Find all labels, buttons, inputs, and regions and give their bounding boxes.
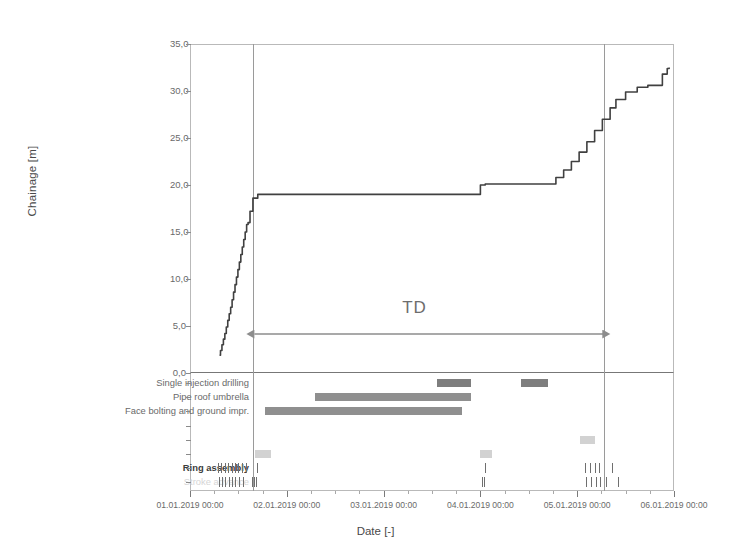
x-minor-tick-mark (335, 491, 336, 494)
gantt-bar (315, 393, 470, 401)
vertical-marker-2 (604, 44, 605, 491)
gantt-row-tick (186, 411, 191, 412)
gantt-event-tick (221, 463, 222, 473)
y-tick-label: 5,0 (170, 320, 186, 331)
x-minor-tick-mark (311, 491, 312, 494)
gantt-event-tick (618, 477, 619, 487)
y-tick-label: 10,0 (170, 273, 186, 284)
gantt-bar (437, 379, 470, 387)
gantt-row-label: Pipe roof umbrella (173, 391, 249, 402)
gantt-bar (521, 379, 548, 387)
gantt-event-tick (235, 463, 236, 473)
gantt-row-label: Single injection drilling (156, 377, 249, 388)
gantt-event-tick (225, 477, 226, 487)
gantt-event-tick (595, 463, 596, 473)
gantt-bar (265, 407, 462, 415)
gantt-event-tick (484, 477, 485, 487)
y-tick-mark (186, 279, 191, 280)
x-tick-mark (384, 491, 385, 497)
x-minor-tick-mark (238, 491, 239, 494)
gantt-event-tick (586, 477, 587, 487)
gantt-event-tick (229, 477, 230, 487)
chart-root: Chainage [m] Date [-] 0,05,010,015,020,0… (0, 0, 751, 560)
x-minor-tick-mark (553, 491, 554, 494)
x-minor-tick-mark (626, 491, 627, 494)
gantt-bar (580, 436, 595, 444)
gantt-event-tick (218, 463, 219, 473)
td-annotation-label: TD (0, 298, 751, 318)
y-tick-mark (186, 185, 191, 186)
y-tick-mark (186, 138, 191, 139)
gantt-event-tick (612, 463, 613, 473)
gantt-event-tick (232, 463, 233, 473)
x-tick-label: 03.01.2019 00:00 (329, 500, 439, 510)
gantt-row-tick (186, 383, 191, 384)
x-tick-label: 01.01.2019 00:00 (135, 500, 245, 510)
gantt-event-tick (590, 463, 591, 473)
gantt-event-tick (585, 463, 586, 473)
x-axis-title: Date [-] (0, 525, 751, 537)
x-tick-label: 02.01.2019 00:00 (232, 500, 342, 510)
plot-area (190, 44, 674, 373)
gantt-row-tick (186, 426, 191, 427)
y-tick-label: 25,0 (170, 132, 186, 143)
gantt-event-tick (599, 463, 600, 473)
gantt-event-tick (225, 463, 226, 473)
vertical-marker-1 (253, 44, 254, 491)
x-tick-label: 04.01.2019 00:00 (425, 500, 535, 510)
x-minor-tick-mark (505, 491, 506, 494)
y-tick-label: 35,0 (170, 38, 186, 49)
x-tick-mark (480, 491, 481, 497)
gantt-event-tick (482, 477, 483, 487)
gantt-event-tick (254, 477, 255, 487)
x-tick-label: 05.01.2019 00:00 (522, 500, 632, 510)
y-tick-mark (186, 91, 191, 92)
gantt-event-tick (238, 463, 239, 473)
gantt-event-tick (606, 477, 607, 487)
y-tick-label: 20,0 (170, 179, 186, 190)
gantt-row-tick (186, 454, 191, 455)
y-tick-label: 15,0 (170, 226, 186, 237)
gantt-bar (255, 450, 271, 458)
x-minor-tick-mark (359, 491, 360, 494)
x-minor-tick-mark (432, 491, 433, 494)
gantt-row-tick (186, 397, 191, 398)
gantt-event-tick (219, 477, 220, 487)
gantt-row-tick (186, 440, 191, 441)
gantt-event-tick (591, 477, 592, 487)
y-tick-label: 30,0 (170, 85, 186, 96)
x-minor-tick-mark (456, 491, 457, 494)
gantt-event-tick (596, 477, 597, 487)
gantt-event-tick (600, 477, 601, 487)
gantt-event-tick (222, 477, 223, 487)
gantt-event-tick (242, 463, 243, 473)
gantt-row-tick (186, 468, 191, 469)
gantt-event-tick (257, 463, 258, 473)
gantt-event-tick (228, 463, 229, 473)
x-minor-tick-mark (529, 491, 530, 494)
gantt-event-tick (243, 477, 244, 487)
gantt-event-tick (232, 477, 233, 487)
gantt-event-tick (256, 477, 257, 487)
x-minor-tick-mark (408, 491, 409, 494)
x-minor-tick-mark (650, 491, 651, 494)
x-minor-tick-mark (601, 491, 602, 494)
gantt-area (190, 373, 674, 491)
x-tick-mark (577, 491, 578, 497)
x-minor-tick-mark (263, 491, 264, 494)
gantt-event-tick (239, 477, 240, 487)
x-tick-mark (674, 491, 675, 497)
y-tick-mark (186, 326, 191, 327)
x-tick-label: 06.01.2019 00:00 (619, 500, 729, 510)
gantt-row-tick (186, 482, 191, 483)
y-tick-mark (186, 232, 191, 233)
y-tick-mark (186, 373, 191, 374)
gantt-event-tick (246, 463, 247, 473)
gantt-event-tick (485, 463, 486, 473)
y-tick-mark (186, 44, 191, 45)
x-tick-mark (190, 491, 191, 497)
x-tick-mark (287, 491, 288, 497)
y-axis-title: Chainage [m] (26, 111, 38, 251)
gantt-bar (480, 450, 492, 458)
x-minor-tick-mark (214, 491, 215, 494)
